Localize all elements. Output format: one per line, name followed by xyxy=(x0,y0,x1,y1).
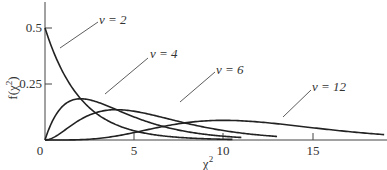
y-tick-label-0.25: 0.25 xyxy=(19,76,42,91)
origin-label: 0 xyxy=(37,143,44,158)
x-tick-label-15: 15 xyxy=(307,143,320,158)
x-axis-label: χ2 xyxy=(202,154,213,170)
leader-nu12 xyxy=(283,90,311,117)
y-tick-label-0.5: 0.5 xyxy=(26,20,42,35)
leader-nu6 xyxy=(180,72,215,102)
leader-nu2 xyxy=(60,22,98,48)
curve-nu2 xyxy=(45,28,232,139)
label-nu6: ν = 6 xyxy=(216,62,244,77)
x-tick-label-5: 5 xyxy=(131,143,138,158)
label-nu2: ν = 2 xyxy=(99,12,127,27)
leader-nu4 xyxy=(105,58,148,94)
y-axis-label: f(χ2) xyxy=(4,76,20,99)
curve-nu12 xyxy=(45,120,384,140)
label-nu12: ν = 12 xyxy=(312,79,347,94)
x-tick-label-10: 10 xyxy=(217,143,230,158)
curve-nu4 xyxy=(45,99,241,140)
chi-square-density-chart: 0.5 0.25 0 5 10 15 f(χ2) χ2 ν = 2 ν = 4 … xyxy=(0,0,387,170)
label-nu4: ν = 4 xyxy=(150,46,178,61)
